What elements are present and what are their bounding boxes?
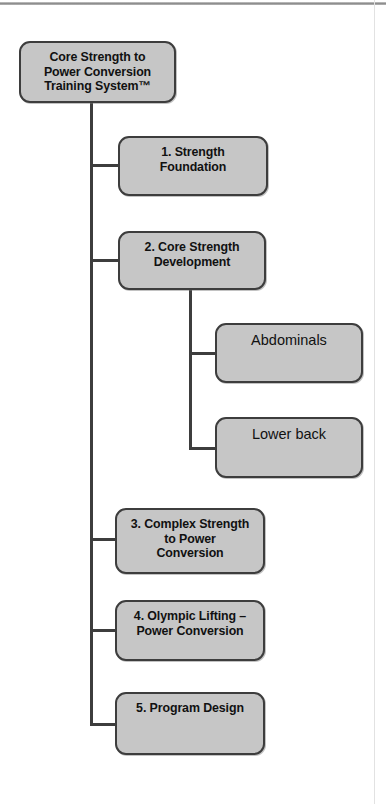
connector-root-to-node-3 — [90, 538, 117, 541]
connector-root-to-node-2 — [90, 259, 120, 262]
node-program-design-label: 5. Program Design — [117, 694, 263, 716]
page-top-rule — [0, 2, 386, 5]
node-root-label: Core Strength to Power Conversion Traini… — [21, 43, 174, 94]
connector-trunk-main — [90, 102, 93, 726]
connector-subtrunk-core-strength — [189, 288, 192, 450]
node-lower-back[interactable]: Lower back — [215, 417, 363, 478]
connector-node2-to-lower-back — [189, 447, 217, 450]
connector-root-to-node-4 — [90, 629, 117, 632]
connector-node2-to-abdominals — [189, 352, 217, 355]
node-complex-strength-to-power-conversion-label: 3. Complex Strength to Power Conversion — [117, 510, 263, 561]
node-core-strength-development-label: 2. Core Strength Development — [120, 233, 264, 269]
diagram-canvas: Core Strength to Power Conversion Traini… — [0, 0, 386, 804]
connector-root-to-node-1 — [90, 164, 120, 167]
node-lower-back-label: Lower back — [217, 419, 361, 443]
node-abdominals-label: Abdominals — [217, 325, 361, 349]
node-strength-foundation-label: 1. Strength Foundation — [120, 138, 266, 174]
connector-root-to-node-5 — [90, 723, 117, 726]
page-right-edge — [374, 0, 375, 804]
node-olympic-lifting-power-conversion-label: 4. Olympic Lifting – Power Conversion — [117, 602, 263, 638]
node-strength-foundation[interactable]: 1. Strength Foundation — [118, 136, 268, 196]
node-core-strength-development[interactable]: 2. Core Strength Development — [118, 231, 266, 290]
node-olympic-lifting-power-conversion[interactable]: 4. Olympic Lifting – Power Conversion — [115, 600, 265, 661]
node-program-design[interactable]: 5. Program Design — [115, 692, 265, 755]
node-abdominals[interactable]: Abdominals — [215, 323, 363, 383]
node-complex-strength-to-power-conversion[interactable]: 3. Complex Strength to Power Conversion — [115, 508, 265, 574]
node-root[interactable]: Core Strength to Power Conversion Traini… — [19, 41, 176, 103]
